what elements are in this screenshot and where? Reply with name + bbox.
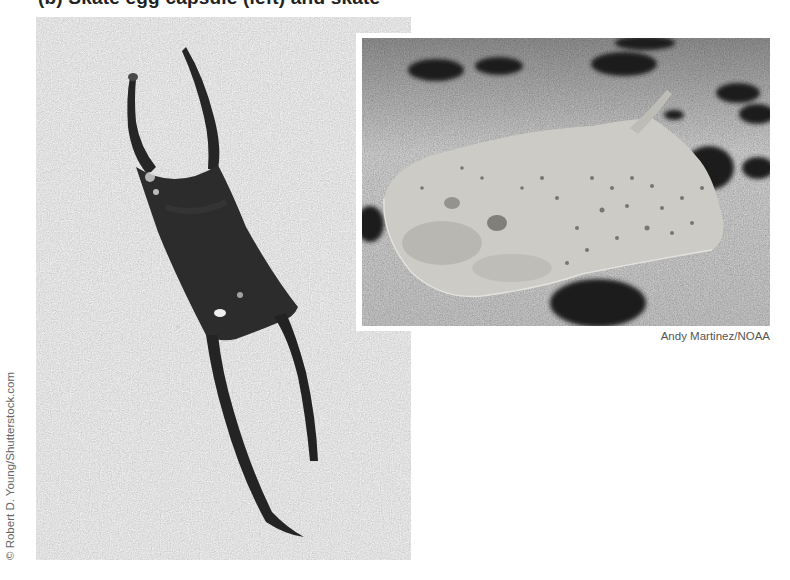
left-photo-credit: © Robert D. Young/Shutterstock.com	[4, 372, 16, 560]
skate-photo	[362, 38, 770, 326]
egg-capsule-photo	[36, 17, 411, 560]
egg-capsule-image	[36, 17, 411, 560]
figure-title: (b) Skate egg capsule (left) and skate	[38, 0, 380, 9]
skate-image	[362, 38, 770, 326]
right-photo-credit: Andy Martinez/NOAA	[661, 330, 770, 342]
